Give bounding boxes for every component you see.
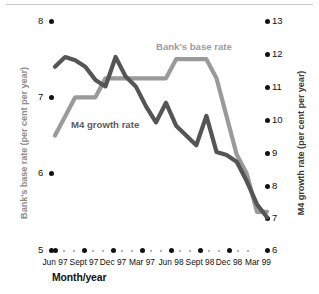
line-bank-base-rate [55,59,267,212]
line-m4-growth-rate [55,57,267,217]
plot-area [0,0,319,294]
chart-container: Bank's base rate (per cent per year) M4 … [0,0,319,294]
